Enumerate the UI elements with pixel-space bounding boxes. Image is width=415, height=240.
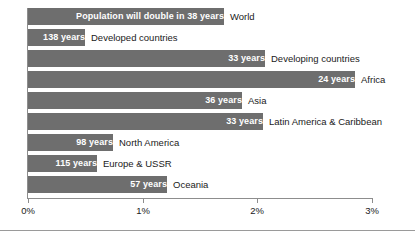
bar-value-label: 138 years [28,29,91,46]
x-axis-tick-label: 0% [21,205,35,216]
plot-area: Population will double in 38 years World… [28,8,372,198]
category-label: Asia [242,92,266,109]
x-axis-tick [28,198,29,203]
bar-value-label: Population will double in 38 years [28,8,230,25]
x-axis-tick [257,198,258,203]
x-axis-tick [372,198,373,203]
category-label: Africa [355,71,385,88]
x-axis-tick-label: 2% [250,205,264,216]
bar-value-label: 36 years [28,92,248,109]
x-axis-tick [143,198,144,203]
category-label: Latin America & Caribbean [263,113,382,130]
x-axis-tick-label: 1% [136,205,150,216]
bar-value-label: 115 years [28,155,103,172]
category-label: Europe & USSR [97,155,172,172]
category-label: Developing countries [265,50,360,67]
category-label: World [224,8,255,25]
bar-value-label: 33 years [28,50,271,67]
population-doubling-bar-chart: Population will double in 38 years World… [0,0,415,240]
bar-value-label: 24 years [28,71,361,88]
bar-value-label: 33 years [28,113,269,130]
bar-value-label: 98 years [28,134,119,151]
category-label: Oceania [167,176,208,193]
category-label: North America [113,134,179,151]
x-axis-line [27,198,372,199]
bar-value-label: 57 years [28,176,173,193]
x-axis-tick-label: 3% [365,205,379,216]
footer-divider [0,230,415,231]
category-label: Developed countries [85,29,178,46]
